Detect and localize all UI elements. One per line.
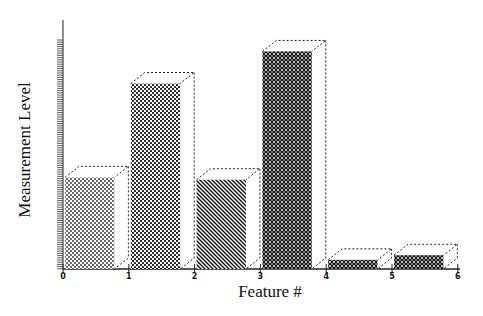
- bar-0: [65, 166, 128, 269]
- y-axis-label: Measurement Level: [15, 70, 35, 230]
- x-tick-label: 2: [190, 272, 200, 281]
- x-axis-label: Feature #: [190, 282, 350, 302]
- y-axis-ruler: [57, 40, 63, 269]
- x-tick-label: 3: [255, 272, 265, 281]
- bar-2: [197, 169, 260, 269]
- bar-1: [131, 73, 194, 269]
- x-tick-label: 4: [321, 272, 331, 281]
- x-tick-label: 1: [124, 272, 134, 281]
- bar-3: [262, 40, 325, 269]
- x-tick-label: 6: [453, 272, 463, 281]
- bar-5: [394, 244, 457, 269]
- bar-chart: [0, 0, 483, 316]
- x-tick-label: 5: [387, 272, 397, 281]
- bar-4: [328, 249, 391, 269]
- bars: [65, 40, 457, 269]
- x-tick-label: 0: [58, 272, 68, 281]
